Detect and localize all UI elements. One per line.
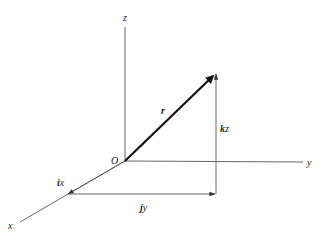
jy-label: jy bbox=[138, 202, 148, 213]
kz-label: kz bbox=[220, 123, 229, 134]
r-vector bbox=[125, 76, 213, 161]
y-axis bbox=[125, 161, 303, 162]
ix-label: ix bbox=[57, 177, 65, 188]
z-axis-label: z bbox=[122, 12, 127, 23]
x-axis-label: x bbox=[7, 220, 13, 231]
ix-label-coord: x bbox=[59, 177, 65, 188]
r-vector-label: r bbox=[161, 105, 165, 116]
vector-decomposition-diagram: z y x O r kz jy ix bbox=[0, 0, 328, 241]
kz-label-coord: z bbox=[224, 123, 229, 134]
jy-label-coord: y bbox=[142, 202, 148, 213]
origin-label: O bbox=[111, 155, 118, 166]
y-axis-label: y bbox=[306, 157, 312, 168]
